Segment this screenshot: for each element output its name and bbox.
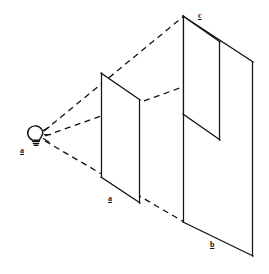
label-light-source: a [20, 147, 24, 155]
figure-canvas: a a b c [0, 0, 269, 274]
bulb-glass [28, 126, 43, 140]
label-panel-a: a [108, 195, 112, 203]
label-panel-c: c [198, 12, 202, 20]
bulb-spark-up [43, 127, 49, 131]
label-panel-b: b [210, 241, 214, 249]
projection-diagram-svg [0, 0, 269, 274]
panel-a [101, 73, 140, 203]
panel-a-face [101, 73, 140, 203]
